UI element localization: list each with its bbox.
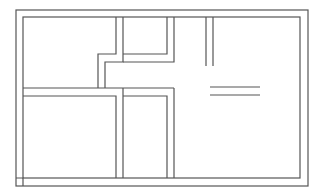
floor-plan-diagram	[0, 0, 318, 194]
canvas-background	[0, 0, 318, 194]
